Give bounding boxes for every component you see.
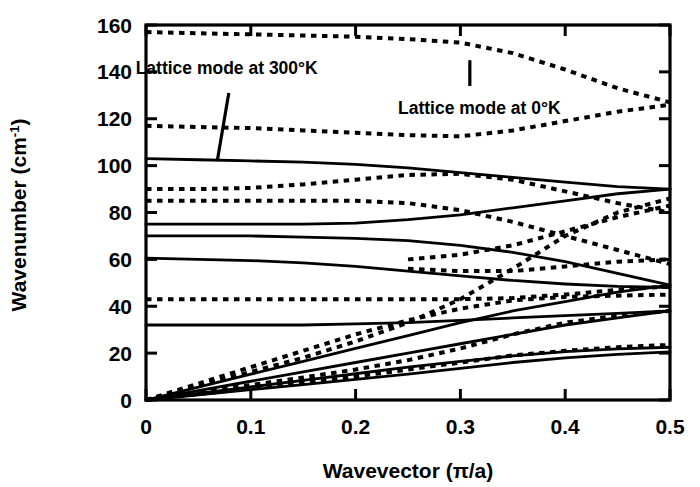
x-tick-label: 0.1	[236, 415, 266, 438]
annotation-label-lattice-mode-300K: Lattice mode at 300°K	[136, 58, 318, 78]
y-axis-title: Wavenumber (cm-1)	[7, 119, 30, 312]
y-tick-label: 120	[97, 107, 132, 130]
x-tick-label: 0.4	[551, 415, 581, 438]
y-tick-label: 20	[109, 342, 132, 365]
y-tick-label: 100	[97, 154, 132, 177]
x-tick-label: 0.2	[341, 415, 370, 438]
x-axis-title: Wavevector (π/a)	[323, 459, 494, 482]
y-tick-label: 140	[97, 60, 132, 83]
x-tick-label: 0	[140, 415, 152, 438]
annotation-label-lattice-mode-0K: Lattice mode at 0°K	[398, 98, 561, 118]
x-tick-label: 0.3	[446, 415, 475, 438]
y-tick-label: 160	[97, 14, 132, 37]
x-tick-label: 0.5	[655, 415, 685, 438]
y-tick-label: 40	[109, 295, 132, 318]
y-tick-label: 0	[120, 389, 132, 412]
y-tick-label: 60	[109, 248, 132, 271]
y-tick-label: 80	[109, 201, 132, 224]
phonon-dispersion-chart: 020406080100120140160 00.10.20.30.40.5 L…	[0, 0, 700, 487]
